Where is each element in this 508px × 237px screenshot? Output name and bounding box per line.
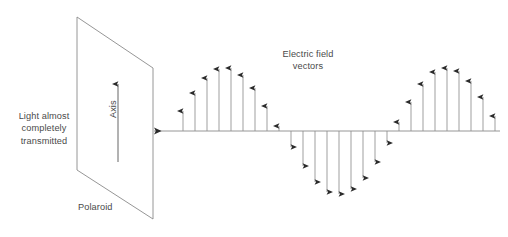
axis-label: Axis <box>107 91 119 127</box>
polaroid-label: Polaroid <box>78 201 140 213</box>
polarization-diagram: Light almost completely transmitted Pola… <box>0 0 508 237</box>
light-transmitted-label: Light almost completely transmitted <box>8 110 80 147</box>
electric-field-vectors-label: Electric field vectors <box>252 48 364 73</box>
